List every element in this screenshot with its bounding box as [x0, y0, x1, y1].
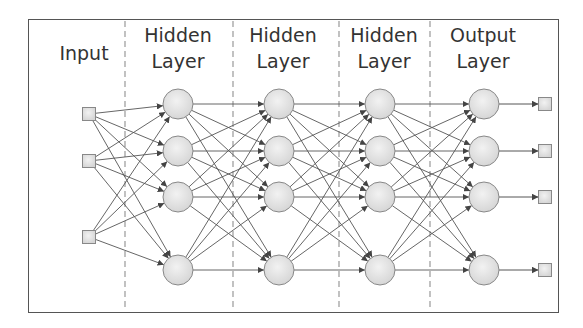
hidden3-neuron	[365, 89, 395, 119]
connection-edge	[95, 239, 164, 265]
hidden3-neuron	[365, 136, 395, 166]
hidden2-neuron	[264, 182, 294, 212]
output-node	[539, 145, 552, 158]
input-node	[83, 108, 96, 121]
hidden2-neuron	[264, 255, 294, 285]
connection-edge	[94, 112, 165, 157]
hidden1-neuron	[163, 182, 193, 212]
input-node	[83, 231, 96, 244]
connection-edge	[92, 120, 170, 257]
output-neuron	[469, 182, 499, 212]
output-neuron	[469, 89, 499, 119]
output-neuron	[469, 255, 499, 285]
output-node	[539, 264, 552, 277]
hidden3-neuron	[365, 182, 395, 212]
input-node	[83, 155, 96, 168]
output-node	[539, 98, 552, 111]
connection-edge	[93, 166, 168, 258]
hidden2-neuron	[264, 89, 294, 119]
connection-edge	[95, 203, 164, 234]
connection-edge	[94, 161, 168, 232]
hidden3-neuron	[365, 255, 395, 285]
connection-edge	[95, 106, 163, 114]
hidden1-neuron	[163, 136, 193, 166]
output-node	[539, 191, 552, 204]
hidden1-neuron	[163, 89, 193, 119]
connections	[92, 104, 538, 270]
network-canvas	[0, 0, 583, 328]
connection-edge	[95, 163, 164, 191]
connection-edge	[94, 118, 167, 186]
output-neuron	[469, 136, 499, 166]
hidden1-neuron	[163, 255, 193, 285]
connection-edge	[95, 153, 163, 161]
hidden2-neuron	[264, 136, 294, 166]
